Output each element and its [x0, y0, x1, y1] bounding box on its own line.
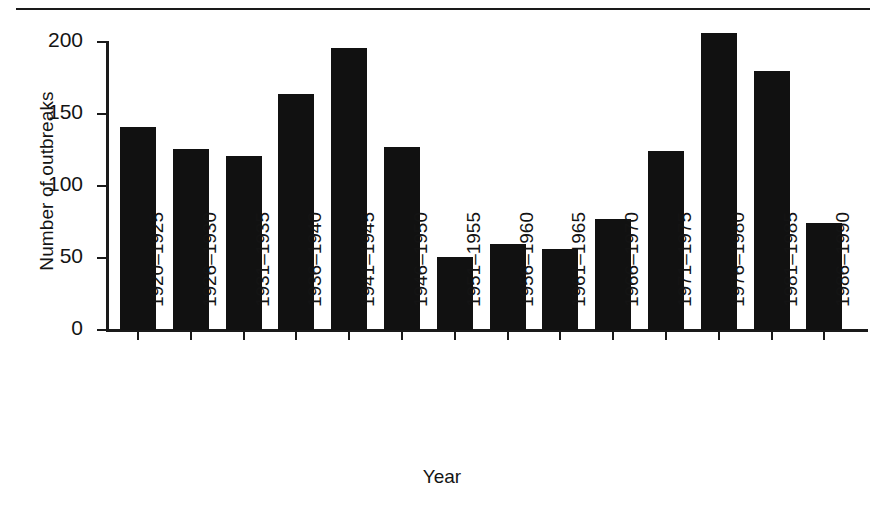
x-tick [454, 331, 456, 340]
y-tick: 50 [97, 257, 107, 259]
x-tick-label: 1951–1955 [463, 212, 485, 342]
x-tick [137, 331, 139, 340]
y-tick: 100 [97, 185, 107, 187]
x-tick [243, 331, 245, 340]
x-tick [559, 331, 561, 340]
y-tick: 150 [97, 113, 107, 115]
x-tick [718, 331, 720, 340]
x-tick [665, 331, 667, 340]
x-tick-label: 1946–1950 [410, 212, 432, 342]
y-tick-label: 200 [48, 27, 83, 53]
x-tick-label: 1926–1930 [199, 212, 221, 342]
x-tick [401, 331, 403, 340]
x-tick-label: 1986–1990 [832, 212, 854, 342]
x-tick-label: 1971–1975 [674, 212, 696, 342]
x-tick-label: 1976–1980 [727, 212, 749, 342]
chart-figure: Number of outbreaks 050100150200 1920–19… [0, 0, 884, 508]
y-tick: 0 [97, 329, 107, 331]
x-tick [612, 331, 614, 340]
y-tick-label: 50 [60, 243, 83, 269]
x-tick [823, 331, 825, 340]
x-tick-label: 1936–1940 [304, 212, 326, 342]
x-tick [507, 331, 509, 340]
x-tick [348, 331, 350, 340]
x-tick-label: 1941–1945 [357, 212, 379, 342]
x-tick [295, 331, 297, 340]
x-tick [771, 331, 773, 340]
x-tick-label: 1956–1960 [516, 212, 538, 342]
x-tick [190, 331, 192, 340]
x-tick-label: 1966–1970 [621, 212, 643, 342]
x-tick-label: 1961–1965 [568, 212, 590, 342]
plot-area: 050100150200 [108, 41, 868, 330]
x-tick-label: 1931–1935 [252, 212, 274, 342]
y-tick-label: 100 [48, 171, 83, 197]
x-tick-label: 1981–1985 [780, 212, 802, 342]
top-horizontal-rule [16, 8, 870, 10]
x-tick-label: 1920–1925 [146, 212, 168, 342]
x-axis-title: Year [0, 466, 884, 488]
y-tick: 200 [97, 41, 107, 43]
y-tick-label: 0 [71, 315, 83, 341]
y-tick-label: 150 [48, 99, 83, 125]
